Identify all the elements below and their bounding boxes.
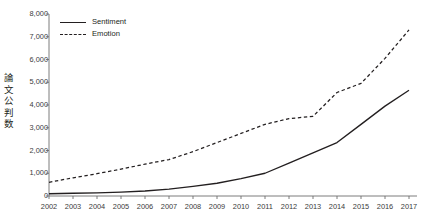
legend-label-emotion: Emotion (92, 28, 120, 40)
chart-legend: Sentiment Emotion (60, 16, 126, 40)
legend-line-solid-icon (60, 18, 86, 26)
series-line-emotion (49, 30, 409, 182)
legend-label-sentiment: Sentiment (92, 16, 126, 28)
axis-lines (49, 14, 417, 196)
line-chart: 論 文 公 判 数 01,0002,0003,0004,0005,0006,00… (0, 0, 425, 219)
series-line-sentiment (49, 90, 409, 194)
legend-item-sentiment: Sentiment (60, 16, 126, 28)
legend-item-emotion: Emotion (60, 28, 126, 40)
legend-line-dashed-icon (60, 30, 86, 38)
